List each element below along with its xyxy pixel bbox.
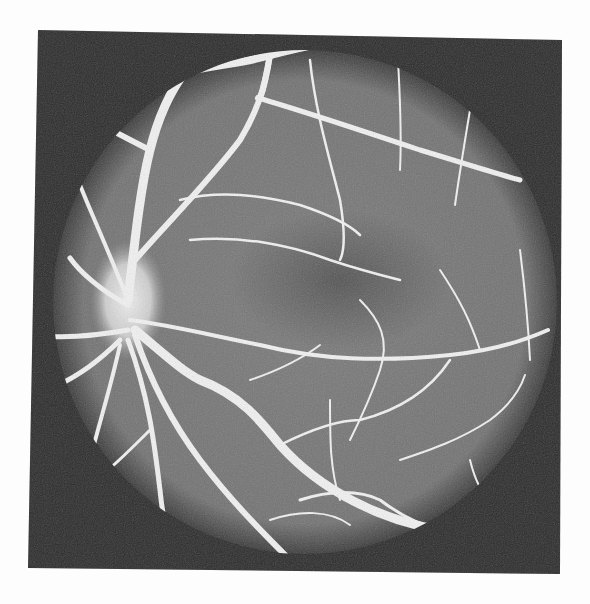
fundus-grain (53, 50, 557, 554)
fundus-angiogram-image (0, 0, 590, 604)
